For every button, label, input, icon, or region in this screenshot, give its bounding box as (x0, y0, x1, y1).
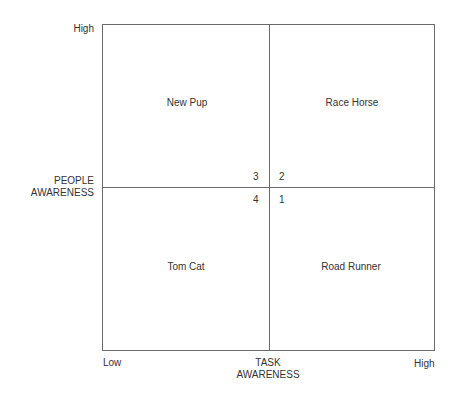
quadrant-number-1: 1 (279, 194, 285, 205)
y-axis-title: PEOPLE AWARENESS (20, 175, 94, 199)
y-axis-title-line1: PEOPLE (20, 175, 94, 187)
quadrant-label-new-pup: New Pup (167, 97, 208, 108)
quadrant-label-race-horse: Race Horse (326, 97, 379, 108)
quadrant-label-tom-cat: Tom Cat (167, 261, 204, 272)
quadrant-grid (102, 24, 435, 351)
quadrant-label-road-runner: Road Runner (321, 261, 380, 272)
x-axis-title-line1: TASK (236, 357, 299, 369)
quadrant-number-2: 2 (279, 171, 285, 182)
x-axis-high-label: High (414, 358, 435, 370)
quadrant-number-4: 4 (253, 194, 259, 205)
y-axis-high-label: High (50, 23, 94, 35)
y-axis-title-line2: AWARENESS (20, 187, 94, 199)
quadrant-number-3: 3 (253, 171, 259, 182)
horizontal-divider (103, 187, 434, 188)
x-axis-title: TASK AWARENESS (236, 357, 299, 381)
x-axis-title-line2: AWARENESS (236, 369, 299, 381)
x-axis-low-label: Low (103, 357, 121, 369)
